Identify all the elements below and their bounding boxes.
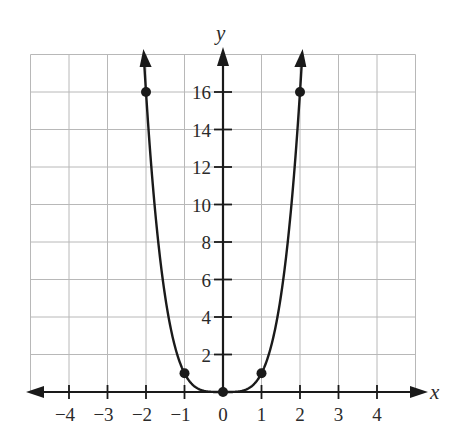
curve-right-arrow-icon	[294, 49, 306, 67]
x-axis-right-arrow-icon	[410, 386, 428, 398]
data-point	[218, 387, 228, 397]
x-tick-label: 3	[334, 404, 344, 425]
x-axis-label: x	[429, 380, 440, 404]
y-axis-arrow-icon	[217, 47, 229, 66]
y-tick-label: 16	[192, 82, 211, 103]
function-graph: −4−3−2−101234246810121416 x y	[0, 0, 459, 446]
data-point	[180, 368, 190, 378]
axes	[26, 47, 428, 398]
x-tick-label: 2	[295, 404, 305, 425]
x-axis-left-arrow-icon	[26, 386, 44, 398]
x-tick-label: 0	[218, 404, 228, 425]
y-tick-label: 14	[192, 120, 212, 141]
y-tick-label: 12	[192, 157, 211, 178]
data-point	[257, 368, 267, 378]
x-tick-label: −3	[93, 404, 113, 425]
x-tick-label: −1	[170, 404, 190, 425]
y-tick-label: 10	[192, 195, 211, 216]
tick-labels: −4−3−2−101234246810121416	[55, 82, 382, 425]
x-tick-label: 1	[257, 404, 267, 425]
x-tick-label: 4	[372, 404, 382, 425]
x-tick-label: −4	[55, 404, 76, 425]
y-tick-label: 4	[202, 307, 212, 328]
data-point	[141, 87, 151, 97]
y-axis-label: y	[214, 21, 226, 45]
y-tick-label: 2	[202, 345, 212, 366]
y-tick-label: 8	[202, 232, 212, 253]
curve-left-arrow-icon	[140, 49, 152, 67]
y-tick-label: 6	[202, 270, 212, 291]
data-point	[295, 87, 305, 97]
x-tick-label: −2	[132, 404, 152, 425]
